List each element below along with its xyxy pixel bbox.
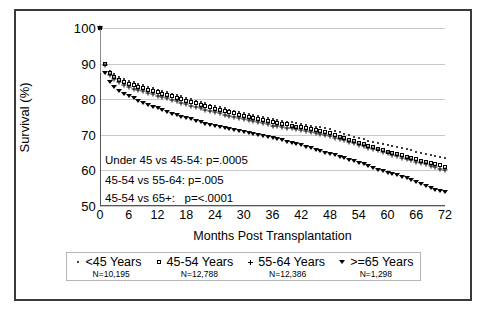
legend-sample-sizes: N=10,195N=12,788N=12,386N=1,298 bbox=[67, 269, 420, 279]
x-tick-60: 60 bbox=[381, 208, 395, 222]
data-point bbox=[425, 153, 427, 155]
legend-marker-plus-icon bbox=[246, 258, 254, 266]
data-point bbox=[107, 80, 113, 84]
data-point bbox=[363, 138, 365, 140]
legend-marker-triangle-down-icon bbox=[338, 258, 346, 266]
y-tick-90: 90 bbox=[81, 56, 96, 71]
data-point bbox=[406, 148, 408, 150]
legend-n-0: N=10,195 bbox=[67, 269, 155, 279]
data-point bbox=[420, 152, 422, 154]
data-point bbox=[443, 168, 448, 173]
x-axis-tick-labels: 061218243036424854606672 bbox=[100, 208, 445, 226]
x-tick-12: 12 bbox=[151, 208, 165, 222]
x-tick-0: 0 bbox=[97, 208, 104, 222]
series-drop-connector bbox=[100, 28, 101, 73]
data-point bbox=[430, 154, 432, 156]
legend-n-1: N=12,788 bbox=[155, 269, 243, 279]
data-point bbox=[396, 146, 398, 148]
data-point bbox=[339, 131, 341, 133]
data-point bbox=[324, 127, 326, 129]
data-point bbox=[391, 145, 393, 147]
x-tick-30: 30 bbox=[237, 208, 251, 222]
y-tick-60: 60 bbox=[81, 163, 96, 178]
x-tick-24: 24 bbox=[208, 208, 222, 222]
y-tick-80: 80 bbox=[81, 92, 96, 107]
legend-label-1: 45-54 Years bbox=[167, 255, 234, 269]
y-tick-50: 50 bbox=[81, 199, 96, 214]
y-tick-70: 70 bbox=[81, 127, 96, 142]
data-point bbox=[329, 128, 331, 130]
legend-item-3[interactable]: >=65 Years bbox=[338, 255, 413, 269]
data-point bbox=[102, 63, 107, 68]
data-point bbox=[348, 134, 350, 136]
legend-label-2: 55-64 Years bbox=[258, 255, 325, 269]
data-point bbox=[334, 130, 336, 132]
legend-item-2[interactable]: 55-64 Years bbox=[246, 255, 325, 269]
legend: <45 Years45-54 Years55-64 Years>=65 Year… bbox=[66, 252, 421, 281]
legend-marker-dot-icon bbox=[74, 258, 82, 266]
legend-item-1[interactable]: 45-54 Years bbox=[155, 255, 234, 269]
gridline-y-50 bbox=[100, 206, 445, 207]
survival-curve-figure: Survival (%) 5060708090100 Under 45 vs 4… bbox=[0, 0, 489, 314]
x-tick-72: 72 bbox=[438, 208, 452, 222]
legend-n-3: N=1,298 bbox=[332, 269, 420, 279]
annotation-under45-vs-4554: Under 45 vs 45-54: p=.0005 bbox=[104, 153, 249, 167]
data-point bbox=[382, 143, 384, 145]
y-axis-title: Survival (%) bbox=[14, 28, 34, 206]
x-tick-42: 42 bbox=[294, 208, 308, 222]
annotation-4554-vs-65plus: 45-54 vs 65+: p=<.0001 bbox=[104, 191, 234, 205]
data-point bbox=[415, 151, 417, 153]
x-tick-36: 36 bbox=[266, 208, 280, 222]
y-tick-100: 100 bbox=[74, 21, 96, 36]
y-axis-tick-labels: 5060708090100 bbox=[58, 28, 96, 206]
data-point bbox=[372, 141, 374, 143]
x-tick-48: 48 bbox=[323, 208, 337, 222]
data-point bbox=[442, 190, 448, 194]
data-point bbox=[353, 136, 355, 138]
y-axis-title-label: Survival (%) bbox=[17, 82, 32, 152]
x-axis-title: Months Post Transplantation bbox=[100, 229, 445, 243]
x-tick-66: 66 bbox=[409, 208, 423, 222]
data-point bbox=[97, 26, 103, 30]
x-tick-54: 54 bbox=[352, 208, 366, 222]
data-point bbox=[410, 149, 412, 151]
data-point bbox=[444, 157, 446, 159]
data-point bbox=[102, 71, 108, 75]
data-point bbox=[343, 133, 345, 135]
data-point bbox=[439, 156, 441, 158]
legend-marker-square-icon bbox=[155, 258, 163, 266]
pvalue-annotations: Under 45 vs 45-54: p=.0005 45-54 vs 55-6… bbox=[104, 150, 319, 206]
legend-n-2: N=12,386 bbox=[244, 269, 332, 279]
x-tick-18: 18 bbox=[179, 208, 193, 222]
data-point bbox=[434, 155, 436, 157]
annotation-4554-vs-5564: 45-54 vs 55-64: p=.005 bbox=[104, 173, 225, 187]
data-point bbox=[319, 126, 321, 128]
data-point bbox=[367, 140, 369, 142]
x-tick-6: 6 bbox=[125, 208, 132, 222]
data-point bbox=[377, 142, 379, 144]
legend-item-0[interactable]: <45 Years bbox=[74, 255, 142, 269]
data-point bbox=[358, 137, 360, 139]
legend-label-3: >=65 Years bbox=[350, 255, 413, 269]
legend-entries: <45 Years45-54 Years55-64 Years>=65 Year… bbox=[67, 255, 420, 269]
legend-label-0: <45 Years bbox=[86, 255, 142, 269]
data-point bbox=[387, 144, 389, 146]
data-point bbox=[401, 147, 403, 149]
